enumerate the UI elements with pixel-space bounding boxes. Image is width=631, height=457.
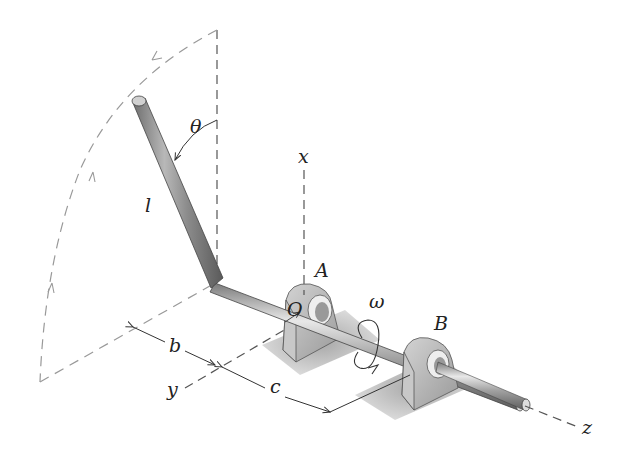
y-axis-label: y [166, 378, 178, 400]
dim-c-label: c [270, 375, 281, 397]
rod-end [132, 96, 146, 106]
length-label: l [145, 194, 151, 216]
bearing-b-label: B [433, 312, 448, 334]
theta-label: θ [190, 115, 202, 137]
z-axis-label: z [581, 416, 593, 438]
x-axis-label: x [298, 145, 309, 167]
arc-arrow-icon [89, 172, 95, 182]
bearing-a-label: A [313, 259, 329, 281]
bent-rod-diagram: θ l x A O ω B b c y z [0, 0, 631, 457]
horizontal-reference-line [40, 282, 217, 382]
z-axis-line [525, 406, 578, 427]
arc-arrow-icon [152, 51, 162, 60]
bearing-b [402, 338, 530, 411]
dim-b-label: b [169, 334, 181, 356]
omega-label: ω [369, 290, 385, 312]
bent-arm [132, 96, 223, 288]
origin-label: O [287, 298, 303, 320]
